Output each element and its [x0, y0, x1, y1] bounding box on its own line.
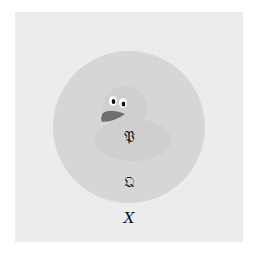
- set-x-label: X: [124, 209, 135, 227]
- set-p-label: 𝔓: [124, 128, 135, 146]
- set-q-label: 𝔔: [124, 174, 134, 191]
